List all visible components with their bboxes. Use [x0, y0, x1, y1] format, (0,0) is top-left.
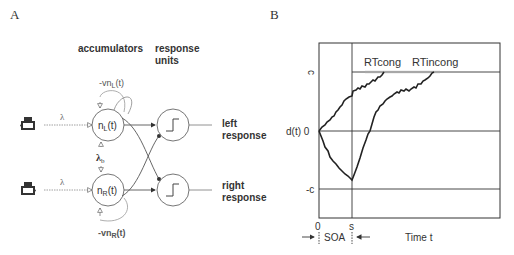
panel-a-label: A	[10, 7, 20, 22]
response-units-header-line2: units	[155, 55, 179, 66]
feedback-label-right: -vnR(t)	[98, 228, 126, 239]
accumulator-left-label: nL(t)	[98, 120, 117, 132]
right-hand-button-icon	[22, 182, 36, 194]
congruent-path	[319, 72, 384, 131]
x-label-s: s	[349, 221, 354, 232]
incongruent-path	[319, 72, 434, 180]
input-rate-right: λ	[60, 177, 65, 187]
right-response-line2: response	[222, 192, 267, 203]
right-response-line1: right	[222, 180, 245, 191]
left-hand-button-icon	[20, 117, 34, 129]
panel-b-label: B	[270, 7, 279, 22]
left-response-line1: left	[222, 118, 238, 129]
inhibitory-left-to-right	[122, 118, 159, 179]
y-label-c: c	[306, 70, 317, 75]
inhibitory-right-to-left	[122, 136, 159, 196]
feedback-arc-left	[100, 91, 125, 112]
soa-label: SOA	[324, 232, 345, 243]
rt-incong-label: RTincong	[412, 56, 458, 68]
x-label-zero: 0	[315, 221, 321, 232]
input-rate-left: λ	[60, 112, 65, 122]
y-label-zero: d(t) 0	[286, 126, 310, 137]
left-response-line2: response	[222, 130, 267, 141]
bias-label: λb	[96, 152, 105, 165]
accumulator-right-label: nR(t)	[97, 185, 117, 197]
feedback-label-left: -vnL(t)	[99, 78, 124, 89]
x-axis-title: Time t	[405, 232, 433, 243]
response-units-header-line1: response	[155, 43, 200, 54]
figure-canvas: A accumulators response units λ λ nL(t) …	[0, 0, 514, 255]
rt-cong-label: RTcong	[364, 56, 401, 68]
plot-frame	[319, 43, 500, 218]
y-label-neg-c: -c	[306, 184, 314, 195]
accumulators-header: accumulators	[78, 43, 143, 54]
